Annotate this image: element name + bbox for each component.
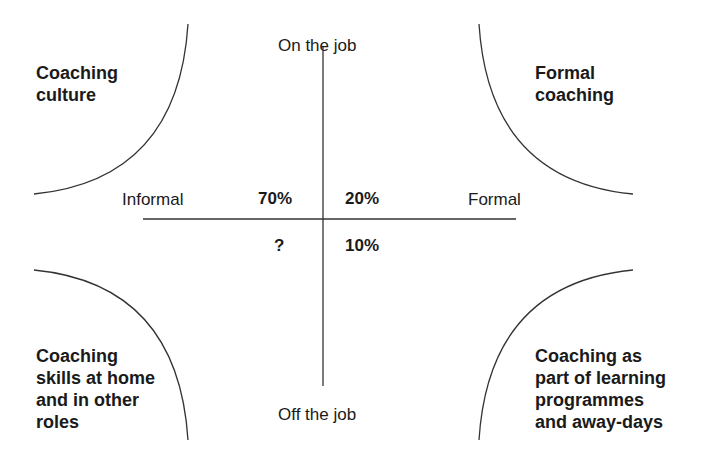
label-line: Coaching: [36, 345, 155, 367]
label-line: Formal: [535, 62, 614, 84]
axis-label-off-the-job: Off the job: [278, 405, 356, 425]
quadrant-top-left-label: Coaching culture: [36, 62, 118, 106]
label-line: coaching: [535, 84, 614, 106]
arc-top-left: [34, 24, 188, 194]
quadrant-top-right-label: Formal coaching: [535, 62, 614, 106]
quadrant-bottom-left-label: Coaching skills at home and in other rol…: [36, 345, 155, 433]
axis-label-formal: Formal: [468, 190, 521, 210]
label-line: Coaching: [36, 62, 118, 84]
label-line: and in other: [36, 389, 155, 411]
pct-bottom-right: 10%: [345, 236, 379, 256]
axis-label-informal: Informal: [122, 190, 183, 210]
arc-top-right: [479, 24, 633, 194]
pct-top-left: 70%: [258, 189, 292, 209]
label-line: programmes: [535, 389, 666, 411]
label-line: Coaching as: [535, 345, 666, 367]
label-line: and away-days: [535, 411, 666, 433]
pct-top-right: 20%: [345, 189, 379, 209]
label-line: skills at home: [36, 367, 155, 389]
axis-label-on-the-job: On the job: [278, 36, 356, 56]
label-line: roles: [36, 411, 155, 433]
quadrant-bottom-right-label: Coaching as part of learning programmes …: [535, 345, 666, 433]
label-line: culture: [36, 84, 118, 106]
pct-bottom-left: ?: [274, 236, 284, 256]
label-line: part of learning: [535, 367, 666, 389]
